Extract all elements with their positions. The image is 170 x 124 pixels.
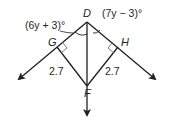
point-label-d: D [83,7,91,19]
point-label-f: F [84,87,92,99]
segment-label-gf: 2.7 [49,65,64,77]
angle-arc-left-tick [60,31,73,33]
segment-label-hf: 2.7 [105,65,120,77]
angle-label-right: (7y − 3)° [102,7,142,19]
angle-arc-left [75,32,87,35]
point-label-h: H [121,36,129,48]
ray-d-right [87,22,155,79]
point-label-g: G [48,36,57,48]
angle-label-left: (6y + 3)° [25,19,65,31]
geometry-diagram: D G H F (6y + 3)° (7y − 3)° 2.7 2.7 [0,0,170,124]
right-angle-mark-g [62,42,68,52]
